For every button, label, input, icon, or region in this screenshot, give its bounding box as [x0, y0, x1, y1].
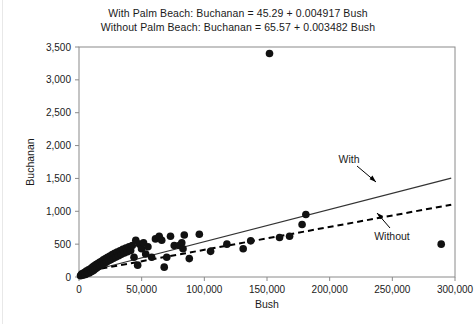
data-point	[158, 236, 166, 244]
y-axis-ticks: 05001,0001,5002,0002,5003,0003,500	[46, 42, 79, 283]
data-point	[163, 253, 171, 261]
x-tick-label: 100,000	[186, 284, 223, 295]
data-point	[437, 240, 445, 248]
y-tick-label: 0	[65, 272, 71, 283]
x-tick-label: 200,000	[312, 284, 349, 295]
data-point	[223, 240, 231, 248]
data-point	[286, 232, 294, 240]
x-tick-label: 300,000	[437, 284, 474, 295]
chart-figure: With Palm Beach: Buchanan = 45.29 + 0.00…	[0, 0, 476, 324]
x-axis-ticks: 050,000100,000150,000200,000250,000300,0…	[76, 277, 473, 295]
data-point	[276, 234, 284, 242]
y-tick-label: 2,000	[46, 140, 71, 151]
y-tick-label: 3,500	[46, 42, 71, 53]
x-axis-title: Bush	[255, 298, 279, 310]
scatter-plot: 05001,0001,5002,0002,5003,0003,500 050,0…	[0, 0, 476, 324]
annotation-leaders	[357, 166, 390, 228]
x-tick-label: 0	[76, 284, 82, 295]
annotation-with: With	[339, 153, 360, 165]
data-point	[148, 253, 156, 261]
annotation-without: Without	[374, 230, 410, 242]
y-tick-label: 2,500	[46, 107, 71, 118]
data-point	[196, 230, 204, 238]
data-point	[179, 245, 187, 253]
y-axis-title: Buchanan	[24, 138, 36, 185]
x-tick-label: 50,000	[126, 284, 157, 295]
data-point	[266, 50, 274, 58]
y-tick-label: 1,000	[46, 206, 71, 217]
x-tick-label: 250,000	[374, 284, 411, 295]
data-point	[185, 255, 193, 263]
data-point	[302, 211, 310, 219]
data-point	[160, 263, 168, 271]
data-point	[144, 243, 152, 251]
y-tick-label: 3,000	[46, 74, 71, 85]
data-point	[180, 231, 188, 239]
data-point	[207, 248, 215, 256]
data-point	[130, 253, 138, 261]
data-point	[247, 237, 255, 245]
data-points	[77, 50, 445, 280]
data-point	[134, 261, 142, 269]
y-tick-label: 500	[54, 239, 71, 250]
y-tick-label: 1,500	[46, 173, 71, 184]
data-point	[298, 221, 306, 229]
data-point	[239, 245, 247, 253]
data-point	[167, 232, 175, 240]
x-tick-label: 150,000	[249, 284, 286, 295]
